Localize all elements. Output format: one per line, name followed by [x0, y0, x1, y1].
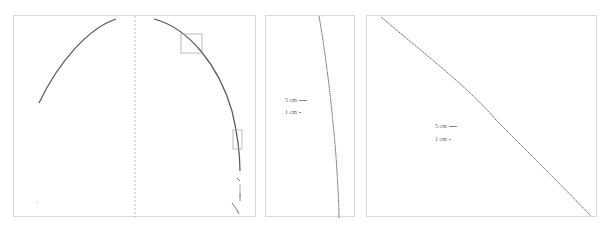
scale-bar-5cm: 5 cm	[435, 123, 457, 129]
scale-bar-5cm: 5 cm	[285, 97, 307, 103]
zoom-panel-vertical: 5 cm 1 cm	[265, 15, 355, 217]
arch-fragment	[232, 203, 239, 214]
inset-box-1	[181, 34, 202, 53]
vertical-zoom-plot	[266, 16, 356, 218]
arch-curve-right	[154, 19, 240, 171]
diagonal-zoom-plot	[367, 16, 598, 218]
scale-label: 1 cm	[435, 136, 447, 142]
overview-panel	[13, 15, 256, 217]
zoom-panel-diagonal: 5 cm 1 cm	[366, 15, 597, 217]
faint-mark	[36, 201, 38, 204]
overview-plot	[14, 16, 257, 218]
zoomed-curve	[381, 17, 591, 216]
arch-curve-left	[39, 19, 116, 103]
zoomed-curve	[319, 16, 339, 218]
scale-label: 1 cm	[285, 109, 297, 115]
arch-fragment	[237, 178, 240, 181]
scale-bar-1cm: 1 cm	[435, 136, 451, 142]
scale-bar-1cm: 1 cm	[285, 109, 301, 115]
scale-label: 5 cm	[285, 97, 297, 103]
scale-label: 5 cm	[435, 123, 447, 129]
